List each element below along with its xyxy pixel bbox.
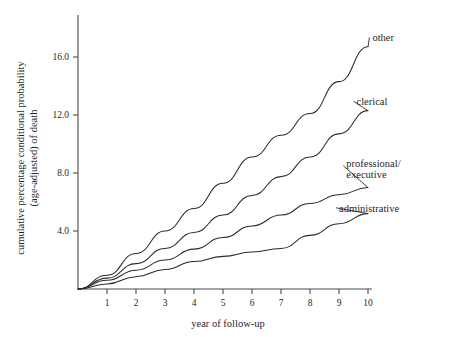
series-labels: otherclericalprofessional/executiveadmin… [339, 32, 401, 213]
series-curves [78, 47, 368, 289]
series-label-other: other [372, 32, 394, 43]
chart-container: 4.08.012.016.0 12345678910 otherclerical… [0, 0, 452, 337]
series-label-administrative: administrative [339, 203, 399, 214]
x-tick-label: 4 [192, 298, 197, 308]
x-tick-label: 3 [163, 298, 168, 308]
x-tick-label: 2 [134, 298, 139, 308]
x-tick-label: 9 [337, 298, 342, 308]
x-tick-label: 1 [105, 298, 110, 308]
series-label-clerical: clerical [357, 96, 388, 107]
line-chart: 4.08.012.016.0 12345678910 otherclerical… [0, 0, 452, 337]
x-tick-label: 8 [308, 298, 313, 308]
series-curve-administrative [78, 214, 368, 289]
series-curve-professional-executive [78, 188, 368, 290]
y-tick-label: 8.0 [57, 168, 69, 178]
x-axis-ticks: 12345678910 [105, 289, 373, 308]
x-tick-label: 5 [221, 298, 226, 308]
series-label-professional-executive: professional/ [346, 158, 400, 169]
y-axis-title-line2: (age-adjusted) of death [28, 109, 40, 207]
x-axis-title: year of follow-up [191, 318, 264, 329]
y-axis-title-line1: cumulative percentage conditional probab… [15, 61, 26, 255]
series-label-professional-executive-line2: executive [346, 169, 387, 180]
x-tick-label: 6 [250, 298, 255, 308]
x-tick-label: 10 [363, 298, 373, 308]
y-tick-label: 16.0 [52, 52, 69, 62]
y-tick-label: 4.0 [57, 226, 69, 236]
series-leader-lines [336, 37, 369, 213]
series-curve-other [78, 47, 368, 289]
y-axis-ticks: 4.08.012.016.0 [52, 52, 78, 236]
y-tick-label: 12.0 [52, 110, 69, 120]
x-tick-label: 7 [279, 298, 284, 308]
series-leader-other [368, 37, 369, 46]
series-curve-clerical [78, 111, 368, 289]
